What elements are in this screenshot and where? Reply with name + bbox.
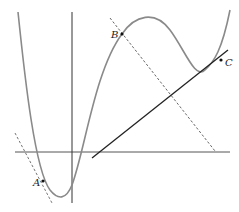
label-a: A (32, 177, 40, 188)
point-c (219, 58, 222, 61)
function-curve (18, 10, 230, 197)
label-b: B (110, 29, 118, 40)
tangent-line-a (15, 133, 52, 203)
point-a (41, 179, 44, 182)
function-graph: A B C (0, 0, 239, 212)
point-b (120, 32, 123, 35)
label-c: C (225, 57, 233, 68)
